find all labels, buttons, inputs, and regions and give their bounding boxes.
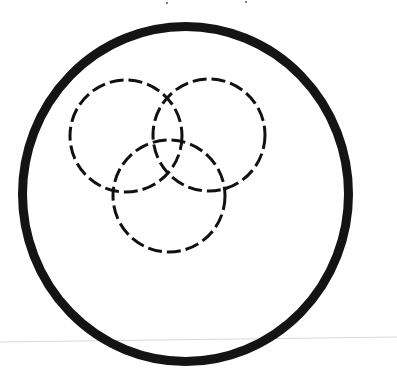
scan-line (0, 337, 397, 342)
dashed-circle-top-right (153, 79, 265, 191)
dashed-circle-group (70, 79, 265, 252)
outer-boundary-circle (23, 27, 349, 362)
dashed-circle-bottom (113, 140, 225, 252)
scan-speck (166, 2, 168, 4)
scan-speck (245, 1, 247, 3)
scan-artifacts (0, 1, 397, 342)
venn-diagram (0, 0, 397, 370)
dashed-circle-top-left (70, 80, 182, 192)
